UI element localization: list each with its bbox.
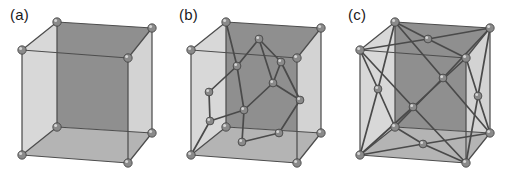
atom-corner: [391, 18, 399, 26]
atom-highlight: [278, 59, 281, 62]
atom-highlight: [276, 130, 279, 133]
atom-highlight: [256, 36, 259, 39]
atom-face-center: [240, 106, 248, 114]
atom-corner: [317, 129, 325, 137]
atom-face-center: [419, 140, 427, 148]
atom-corner: [462, 159, 470, 167]
atom-corner: [18, 46, 26, 54]
atom-highlight: [54, 124, 57, 127]
atom-highlight: [375, 86, 378, 89]
atom-highlight: [19, 47, 22, 50]
atom-highlight: [392, 124, 395, 127]
atom-highlight: [270, 80, 273, 83]
atom-highlight: [149, 25, 152, 28]
atom-highlight: [425, 36, 428, 39]
atom-highlight: [463, 55, 466, 58]
atom-corner: [148, 129, 156, 137]
atom-corner: [222, 123, 230, 131]
atom-highlight: [357, 47, 360, 50]
atom-corner: [356, 151, 364, 159]
atom-face-center: [474, 92, 482, 100]
atom-highlight: [357, 152, 360, 155]
atom-interior: [269, 79, 277, 87]
atom-face-center: [205, 88, 213, 96]
atom-highlight: [149, 130, 152, 133]
figure-root: (a): [0, 0, 507, 180]
atom-corner: [148, 24, 156, 32]
atom-face-center: [424, 35, 432, 43]
atom-corner: [293, 159, 301, 167]
panel-b: (b): [169, 0, 338, 180]
atom-face-center: [238, 138, 246, 146]
atom-corner: [222, 18, 230, 26]
atom-interior: [277, 58, 285, 66]
panel-c-cube-diagram: [338, 0, 507, 180]
atom-highlight: [239, 139, 242, 142]
atom-corner: [391, 123, 399, 131]
atom-face-center: [374, 85, 382, 93]
atom-highlight: [188, 47, 191, 50]
atom-corner: [187, 151, 195, 159]
atom-face-center: [296, 96, 304, 104]
atom-highlight: [294, 160, 297, 163]
atom-corner: [486, 24, 494, 32]
atom-highlight: [125, 55, 128, 58]
atom-corner: [317, 24, 325, 32]
atom-highlight: [294, 55, 297, 58]
atom-corner: [124, 159, 132, 167]
panel-a: (a): [0, 0, 169, 180]
atom-highlight: [475, 93, 478, 96]
atom-highlight: [297, 97, 300, 100]
atom-corner: [53, 18, 61, 26]
atom-highlight: [188, 152, 191, 155]
atom-highlight: [223, 124, 226, 127]
atom-highlight: [410, 104, 413, 107]
atom-corner: [187, 46, 195, 54]
atom-interior: [275, 129, 283, 137]
atom-highlight: [125, 160, 128, 163]
atom-highlight: [207, 118, 210, 121]
atom-highlight: [487, 25, 490, 28]
atom-highlight: [223, 19, 226, 22]
atom-corner: [462, 54, 470, 62]
atom-face-center: [409, 103, 417, 111]
atom-corner: [53, 123, 61, 131]
atom-highlight: [392, 19, 395, 22]
atom-highlight: [318, 130, 321, 133]
atom-highlight: [463, 160, 466, 163]
atom-highlight: [206, 89, 209, 92]
atom-interior: [233, 62, 241, 70]
panel-b-cube-diagram: [169, 0, 338, 180]
atom-highlight: [420, 141, 423, 144]
atom-highlight: [318, 25, 321, 28]
atom-face-center: [255, 35, 263, 43]
atom-corner: [293, 54, 301, 62]
atom-face-center: [439, 74, 447, 82]
atom-corner: [18, 151, 26, 159]
atom-highlight: [440, 75, 443, 78]
atom-highlight: [487, 130, 490, 133]
atom-corner: [124, 54, 132, 62]
panel-c: (c): [338, 0, 507, 180]
atom-highlight: [241, 107, 244, 110]
atom-highlight: [54, 19, 57, 22]
atom-highlight: [19, 152, 22, 155]
atom-corner: [486, 129, 494, 137]
panel-a-cube-diagram: [0, 0, 169, 180]
atom-highlight: [234, 63, 237, 66]
atom-corner: [356, 46, 364, 54]
atom-interior: [206, 117, 214, 125]
